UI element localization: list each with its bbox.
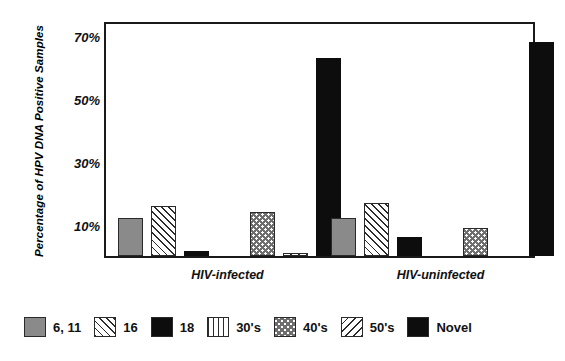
bar-hiv-uninfected-novel (529, 42, 554, 256)
legend-label: 18 (180, 321, 194, 334)
hpv-dna-bar-chart: Percentage of HPV DNA Positive Samples 1… (0, 0, 565, 361)
x-axis-label-group-2: HIV-uninfected (331, 268, 551, 282)
legend-label: Novel (436, 321, 471, 334)
legend-swatch-icon (341, 317, 363, 337)
legend-label: 16 (123, 321, 137, 334)
y-axis-tick-50: 50% (54, 94, 100, 107)
legend-swatch-icon (207, 317, 229, 337)
y-axis-tick-10: 10% (54, 220, 100, 233)
plot-area (104, 22, 535, 258)
bar-hiv-infected-40-s (250, 212, 275, 256)
bar-hiv-infected-16 (151, 206, 176, 256)
legend-item-30-s[interactable]: 30's (207, 317, 274, 337)
legend-swatch-icon (274, 317, 296, 337)
legend-label: 50's (370, 321, 395, 334)
legend-swatch-icon (407, 317, 429, 337)
legend-item-16[interactable]: 16 (94, 317, 150, 337)
legend-item-40-s[interactable]: 40's (274, 317, 341, 337)
legend-item-6-11[interactable]: 6, 11 (24, 317, 94, 337)
legend-swatch-icon (94, 317, 116, 337)
legend-swatch-icon (151, 317, 173, 337)
legend-label: 40's (303, 321, 328, 334)
bar-hiv-uninfected-40-s (463, 228, 488, 256)
plot-inner (106, 24, 533, 256)
bar-hiv-infected-50-s (283, 253, 308, 256)
y-axis-tick-labels: 10%30%50%70% (50, 0, 100, 361)
y-axis-title: Percentage of HPV DNA Positive Samples (33, 16, 45, 266)
legend-item-50-s[interactable]: 50's (341, 317, 408, 337)
bar-hiv-uninfected-18 (397, 237, 422, 256)
legend-label: 30's (236, 321, 261, 334)
legend-swatch-icon (24, 317, 46, 337)
bar-hiv-infected-6-11 (118, 218, 143, 256)
y-axis-tick-30: 30% (54, 157, 100, 170)
y-axis-tick-70: 70% (54, 31, 100, 44)
bar-hiv-uninfected-16 (364, 203, 389, 256)
legend-item-18[interactable]: 18 (151, 317, 207, 337)
x-axis-label-group-1: HIV-infected (118, 268, 338, 282)
chart-legend: 6, 11161830's40's50'sNovel (24, 312, 544, 342)
bar-hiv-uninfected-6-11 (331, 218, 356, 256)
legend-label: 6, 11 (53, 321, 81, 334)
legend-item-novel[interactable]: Novel (407, 317, 484, 337)
bar-hiv-infected-18 (184, 251, 209, 256)
